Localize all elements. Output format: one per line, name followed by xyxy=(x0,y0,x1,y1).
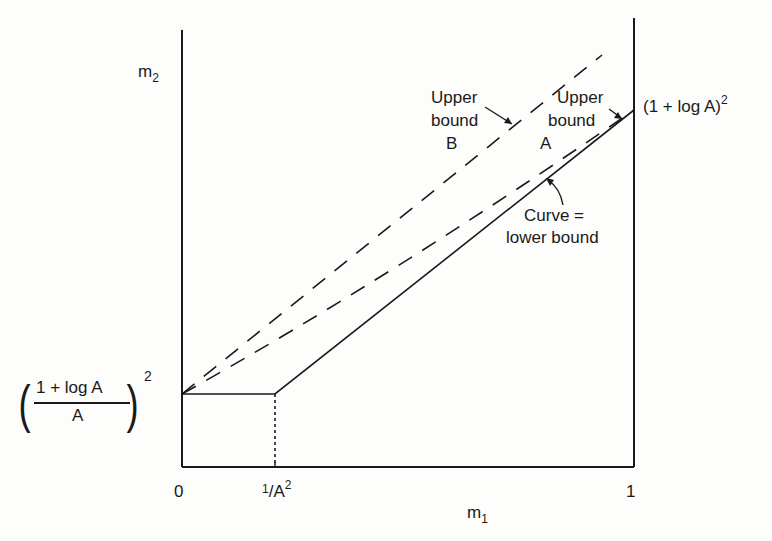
top-right-value-label: (1 + log A)2 xyxy=(643,97,728,118)
y-axis-label: m2 xyxy=(138,62,159,83)
fraction-bar xyxy=(34,402,130,404)
fraction-exponent: 2 xyxy=(144,366,152,386)
upper-bound-a-line2: bound xyxy=(548,111,595,131)
left-value-label: ( 1 + log A A ) 2 xyxy=(0,378,180,438)
bounds-diagram xyxy=(0,0,772,541)
x-axis-label: m1 xyxy=(467,503,488,524)
x-tick-label-one: 1 xyxy=(626,482,635,502)
curve-lower-line1: Curve = xyxy=(524,206,584,226)
curve-lower-line2: lower bound xyxy=(506,228,599,248)
upper-bound-a-curve xyxy=(182,110,634,394)
upper-bound-b-line1: Upper xyxy=(431,88,477,108)
upper-bound-b-line2: bound xyxy=(431,111,478,131)
x-tick-label-inv-a2: 1/A2 xyxy=(262,482,291,503)
x-tick-label-zero: 0 xyxy=(174,482,183,502)
fraction-denominator: A xyxy=(72,406,83,426)
upper-bound-a-line3: A xyxy=(540,134,551,154)
upper-bound-a-line1: Upper xyxy=(557,88,603,108)
fraction-numerator: 1 + log A xyxy=(36,378,103,398)
lower-bound-curve xyxy=(182,110,634,394)
upper-bound-b-line3: B xyxy=(446,134,457,154)
